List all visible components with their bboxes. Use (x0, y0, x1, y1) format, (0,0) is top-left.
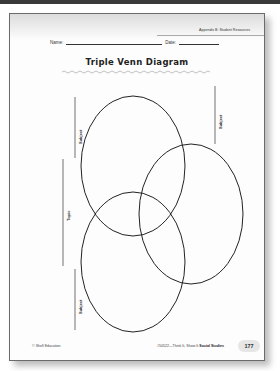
venn-diagram (10, 14, 265, 361)
footer-product-bold: Social Studies (199, 344, 224, 348)
subject-top-left-label: Subject (78, 130, 83, 144)
subject-right-label: Subject (218, 115, 223, 129)
page-number: 177 (238, 340, 260, 352)
venn-circle-bottom (81, 192, 185, 332)
footer-product-prefix: #50522—Think It, Show It (157, 344, 199, 348)
footer-product: #50522—Think It, Show It Social Studies (157, 344, 224, 348)
footer-copyright: © Shell Education (32, 344, 61, 348)
topic-label: Topic (66, 211, 71, 221)
worksheet-page: Appendix B: Student Resources Name: Date… (9, 13, 265, 361)
venn-circle-top (81, 96, 185, 236)
subject-bottom-left-label: Subject (78, 300, 83, 314)
top-bar (0, 0, 280, 4)
venn-circle-right (139, 144, 243, 284)
